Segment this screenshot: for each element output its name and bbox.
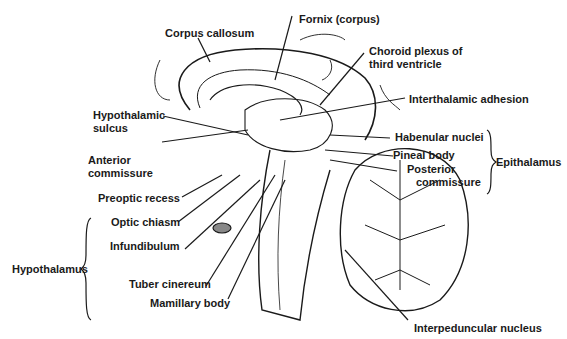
label-choroid-plexus-line1: Choroid plexus of <box>369 45 463 58</box>
label-hypothalamic-sulcus-line1: Hypothalamic <box>93 109 165 122</box>
thalamus-shape <box>245 99 332 152</box>
optic-chiasm-shape <box>213 223 231 233</box>
brainstem-shape <box>259 150 330 320</box>
label-optic-chiasm: Optic chiasm <box>111 216 180 229</box>
label-corpus-callosum: Corpus callosum <box>165 27 254 40</box>
label-anterior-commissure-line1: Anterior <box>88 154 131 167</box>
label-hypothalamic-sulcus-line2: sulcus <box>93 122 128 135</box>
label-mamillary-body: Mamillary body <box>150 297 230 310</box>
label-posterior-commissure-line1: Posterior <box>407 163 455 176</box>
epithalamus-brace <box>487 130 496 194</box>
label-interthalamic-adhesion: Interthalamic adhesion <box>409 93 529 106</box>
label-preoptic-recess: Preoptic recess <box>98 192 180 205</box>
label-interpeduncular-nucleus: Interpeduncular nucleus <box>414 322 542 335</box>
label-posterior-commissure-line2: commissure <box>416 176 481 189</box>
label-pineal-body: Pineal body <box>393 149 455 162</box>
label-fornix: Fornix (corpus) <box>299 13 380 26</box>
label-choroid-plexus-line2: third ventricle <box>369 58 442 71</box>
label-hypothalamus: Hypothalamus <box>12 263 88 276</box>
brain-illustration <box>0 0 567 339</box>
label-anterior-commissure-line2: commissure <box>88 167 153 180</box>
label-infundibulum: Infundibulum <box>110 240 180 253</box>
label-tuber-cinereum: Tuber cinereum <box>129 278 211 291</box>
label-epithalamus: Epithalamus <box>496 156 561 169</box>
label-habenular-nuclei: Habenular nuclei <box>395 131 484 144</box>
